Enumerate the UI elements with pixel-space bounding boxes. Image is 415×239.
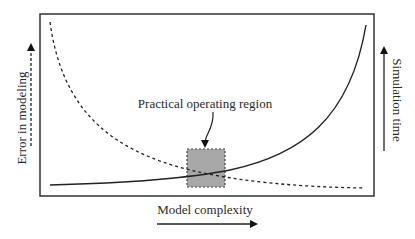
practical-operating-region-box	[187, 149, 225, 187]
y-left-label: Error in modeling	[14, 71, 30, 164]
x-axis-label: Model complexity	[157, 202, 253, 218]
y-right-label: Simulation time	[389, 58, 405, 141]
annotation-label: Practical operating region	[138, 96, 272, 112]
annotation-arrow	[205, 112, 213, 146]
